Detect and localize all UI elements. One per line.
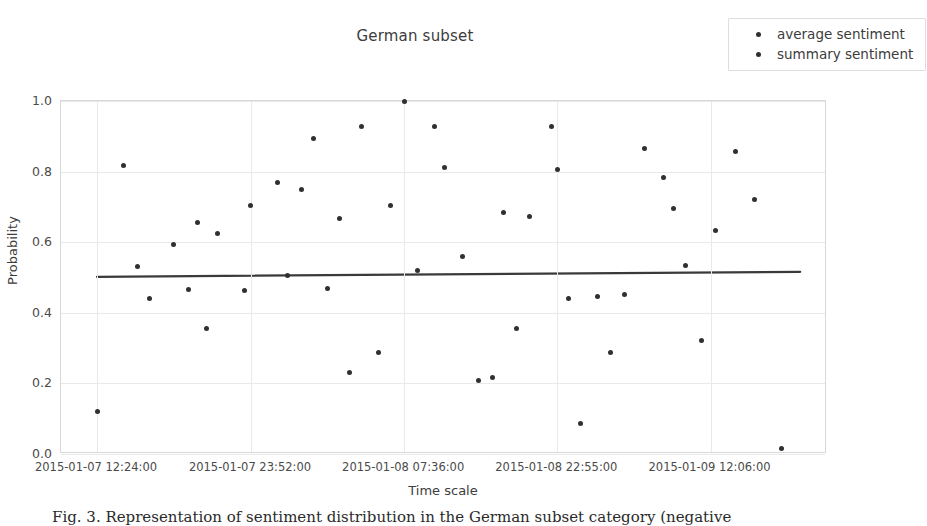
scatter-point	[490, 375, 495, 380]
gridline-vertical	[97, 101, 98, 452]
scatter-point	[642, 146, 647, 151]
scatter-point	[578, 421, 583, 426]
y-axis-tick-label: 1.0	[2, 93, 52, 108]
scatter-point	[195, 220, 200, 225]
gridline-vertical	[557, 101, 558, 452]
legend-item-average-sentiment[interactable]: average sentiment	[739, 24, 913, 44]
x-axis-label: Time scale	[60, 483, 826, 498]
y-axis-tick-label: 0.2	[2, 375, 52, 390]
scatter-point	[442, 165, 447, 170]
scatter-point	[275, 180, 280, 185]
trendline	[97, 272, 800, 277]
legend-label: average sentiment	[777, 26, 905, 42]
gridline-vertical	[711, 101, 712, 452]
scatter-point	[325, 286, 330, 291]
x-axis-tick-label: 2015-01-09 12:06:00	[648, 460, 770, 474]
scatter-point	[555, 167, 560, 172]
x-axis-tick-labels: 2015-01-07 12:24:002015-01-07 23:52:0020…	[60, 460, 826, 478]
scatter-point	[779, 446, 784, 451]
scatter-point	[95, 409, 100, 414]
gridline-vertical	[251, 101, 252, 452]
figure-caption: Fig. 3. Representation of sentiment dist…	[52, 508, 912, 526]
scatter-point	[347, 370, 352, 375]
scatter-point	[215, 231, 220, 236]
scatter-point	[337, 216, 342, 221]
legend-item-summary-sentiment[interactable]: summary sentiment	[739, 44, 913, 64]
legend-marker-icon	[739, 52, 777, 57]
x-axis-tick-label: 2015-01-08 07:36:00	[342, 460, 464, 474]
scatter-point	[171, 242, 176, 247]
y-axis-tick-label: 0.0	[2, 446, 52, 461]
scatter-point	[622, 292, 627, 297]
legend-marker-icon	[739, 32, 777, 37]
gridline-horizontal	[61, 454, 825, 455]
gridline-vertical	[404, 101, 405, 452]
scatter-point	[476, 378, 481, 383]
scatter-point	[549, 124, 554, 129]
scatter-point	[661, 175, 666, 180]
scatter-point	[733, 149, 738, 154]
scatter-point	[752, 197, 757, 202]
x-axis-tick-label: 2015-01-07 12:24:00	[35, 460, 157, 474]
x-axis-tick-label: 2015-01-08 22:55:00	[495, 460, 617, 474]
chart-legend: average sentiment summary sentiment	[728, 18, 926, 71]
y-axis-label: Probability	[5, 171, 20, 331]
scatter-point	[501, 210, 506, 215]
chart-title: German subset	[0, 27, 830, 45]
legend-label: summary sentiment	[777, 46, 913, 62]
plot-area	[60, 100, 826, 453]
scatter-point	[359, 124, 364, 129]
scatter-point	[402, 99, 407, 104]
scatter-point	[566, 296, 571, 301]
x-axis-tick-label: 2015-01-07 23:52:00	[189, 460, 311, 474]
plot-inner	[61, 101, 825, 452]
